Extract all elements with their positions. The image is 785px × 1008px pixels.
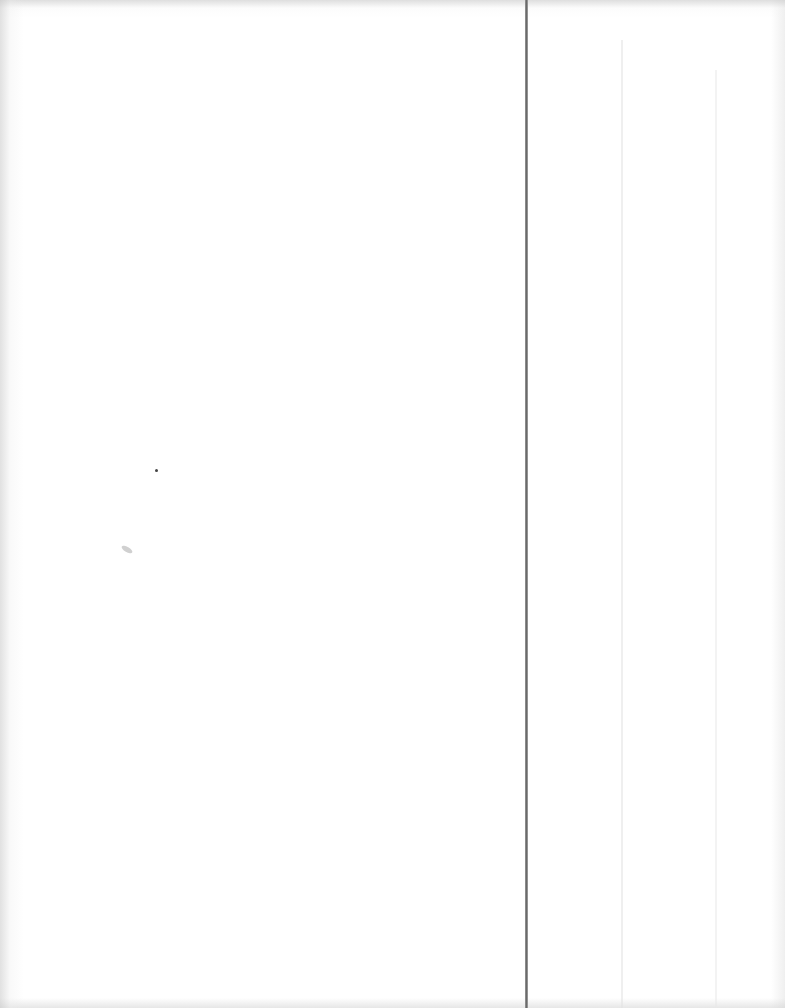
faint-column-guide	[621, 40, 623, 1008]
scan-smudge	[121, 544, 134, 554]
faint-column-guide	[715, 70, 717, 1008]
column-divider-line	[525, 0, 528, 1008]
scanned-page	[0, 0, 785, 1008]
scan-speck	[155, 469, 158, 472]
